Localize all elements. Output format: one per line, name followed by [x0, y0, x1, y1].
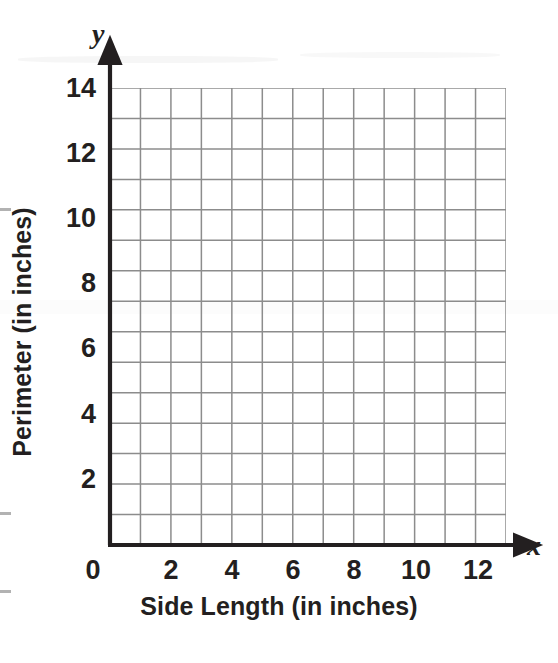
x-axis-tick-labels: 0 2 4 6 8 10 12	[0, 557, 558, 597]
coordinate-grid	[110, 88, 506, 545]
y-tick-14: 14	[66, 75, 96, 102]
y-tick-4: 4	[81, 401, 96, 428]
y-tick-10: 10	[66, 205, 96, 232]
y-axis-title: Perimeter (in inches)	[8, 207, 37, 456]
x-tick-4: 4	[224, 557, 239, 584]
x-tick-10: 10	[401, 557, 431, 584]
x-tick-12: 12	[463, 557, 493, 584]
x-axis-title: Side Length (in inches)	[0, 592, 558, 621]
x-axis-variable-label: x	[527, 532, 541, 560]
plot-area	[110, 88, 506, 545]
y-tick-2: 2	[81, 466, 96, 493]
y-axis-title-container: Perimeter (in inches)	[0, 0, 44, 663]
x-tick-2: 2	[163, 557, 178, 584]
y-axis-variable-label: y	[92, 20, 104, 48]
x-tick-6: 6	[285, 557, 300, 584]
y-tick-6: 6	[81, 335, 96, 362]
y-tick-12: 12	[66, 140, 96, 167]
x-tick-0: 0	[85, 557, 100, 584]
y-tick-8: 8	[81, 270, 96, 297]
x-tick-8: 8	[346, 557, 361, 584]
scan-artifact-top-right	[300, 52, 500, 58]
